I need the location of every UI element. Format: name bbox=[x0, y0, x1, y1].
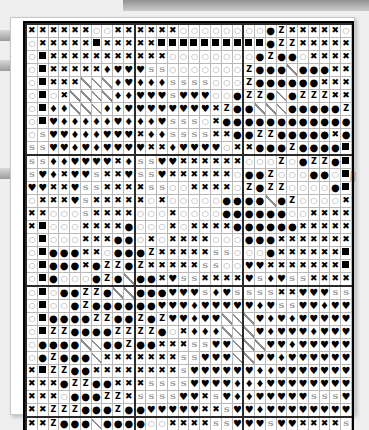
pattern-cell-filled-circle bbox=[330, 142, 341, 156]
diamond-icon bbox=[255, 378, 265, 390]
diagonal-slash-icon bbox=[113, 287, 123, 299]
pattern-cell-letter-z bbox=[48, 417, 59, 430]
pattern-cell-filled-circle bbox=[102, 378, 113, 391]
pattern-cell-heart bbox=[298, 300, 309, 313]
pattern-cell-filled-square bbox=[37, 234, 48, 247]
pattern-cell-bold-cross bbox=[330, 38, 341, 51]
pattern-cell-heart bbox=[123, 129, 134, 142]
pattern-cell-bold-cross bbox=[91, 208, 102, 221]
pattern-cell-heart bbox=[70, 182, 81, 195]
cross-stitch-chart[interactable] bbox=[23, 21, 354, 430]
pattern-cell-bold-cross bbox=[319, 221, 330, 234]
pattern-cell-bold-cross bbox=[211, 129, 222, 142]
pattern-cell-heart bbox=[330, 352, 341, 365]
pattern-cell-heart bbox=[298, 286, 309, 300]
heart-icon bbox=[124, 77, 134, 89]
bold-cross-icon bbox=[157, 247, 167, 259]
filled-circle-icon bbox=[136, 287, 146, 299]
viewer-toolbar[interactable] bbox=[123, 0, 369, 11]
filled-circle-icon bbox=[330, 156, 340, 168]
bold-cross-icon bbox=[157, 365, 167, 377]
pattern-cell-letter-z bbox=[59, 404, 70, 418]
pattern-cell-heart bbox=[211, 300, 222, 313]
heart-icon bbox=[59, 142, 69, 154]
bold-cross-icon bbox=[49, 195, 59, 207]
pattern-cell-letter-z bbox=[102, 260, 113, 273]
open-circle-icon bbox=[27, 51, 37, 63]
pattern-cell-letter-s bbox=[178, 116, 189, 129]
pattern-cell-open-circle bbox=[211, 234, 222, 247]
pattern-cell-filled-circle bbox=[113, 273, 124, 287]
bold-cross-icon bbox=[330, 221, 340, 233]
pattern-cell-heart bbox=[232, 365, 243, 378]
pattern-cell-bold-cross bbox=[341, 234, 352, 247]
pattern-cell-heart bbox=[319, 352, 330, 365]
bold-cross-icon bbox=[102, 234, 112, 246]
pattern-cell-open-circle bbox=[178, 221, 189, 234]
pattern-cell-filled-circle bbox=[135, 286, 146, 300]
letter-s-icon bbox=[168, 116, 178, 128]
filled-circle-icon bbox=[157, 287, 167, 299]
bold-cross-icon bbox=[59, 195, 69, 207]
letter-z-icon bbox=[146, 326, 156, 338]
heart-icon bbox=[38, 182, 48, 194]
pattern-grid[interactable] bbox=[25, 23, 352, 430]
bold-cross-icon bbox=[277, 260, 287, 272]
pattern-cell-open-circle bbox=[59, 208, 70, 221]
pattern-cell-open-circle bbox=[232, 182, 243, 195]
filled-circle-icon bbox=[309, 116, 319, 128]
letter-s-icon bbox=[330, 391, 340, 403]
pattern-row bbox=[26, 247, 352, 260]
bold-cross-icon bbox=[330, 38, 340, 50]
pattern-cell-bold-cross bbox=[26, 391, 37, 404]
letter-z-icon bbox=[309, 90, 319, 102]
filled-circle-icon bbox=[298, 129, 308, 141]
bold-cross-icon bbox=[168, 247, 178, 259]
open-circle-icon bbox=[189, 208, 199, 220]
pattern-cell-heart bbox=[37, 182, 48, 195]
pattern-cell-filled-square bbox=[157, 38, 168, 51]
pattern-cell-bold-cross bbox=[135, 24, 146, 38]
pattern-cell-diamond bbox=[113, 77, 124, 90]
filled-circle-icon bbox=[136, 247, 146, 259]
bold-cross-icon bbox=[124, 182, 134, 194]
pattern-cell-filled-circle bbox=[308, 64, 319, 77]
filled-circle-icon bbox=[49, 247, 59, 259]
pattern-cell-bold-cross bbox=[308, 260, 319, 273]
open-circle-icon bbox=[27, 38, 37, 50]
pattern-cell-filled-circle bbox=[146, 286, 157, 300]
pattern-cell-open-circle bbox=[211, 24, 222, 38]
pattern-cell-bold-cross bbox=[167, 417, 178, 430]
pattern-cell-bold-cross bbox=[211, 221, 222, 234]
pattern-cell-bold-cross bbox=[91, 247, 102, 260]
pattern-cell-open-circle bbox=[59, 234, 70, 247]
filled-circle-icon bbox=[59, 260, 69, 272]
pattern-cell-filled-circle bbox=[287, 129, 298, 142]
pattern-cell-filled-circle bbox=[232, 116, 243, 129]
open-circle-icon bbox=[27, 300, 37, 312]
filled-circle-icon bbox=[309, 129, 319, 141]
pattern-cell-diagonal-slash bbox=[265, 103, 276, 116]
open-circle-icon bbox=[330, 169, 340, 181]
pattern-cell-diamond bbox=[189, 300, 200, 313]
filled-square-icon bbox=[38, 221, 48, 233]
pattern-cell-heart bbox=[255, 391, 266, 404]
filled-square-icon bbox=[38, 51, 48, 63]
pattern-cell-filled-circle bbox=[59, 378, 70, 391]
bold-cross-icon bbox=[49, 51, 59, 63]
pattern-cell-letter-s bbox=[189, 116, 200, 129]
heart-icon bbox=[200, 313, 210, 325]
diamond-icon bbox=[211, 326, 221, 338]
pattern-cell-bold-cross bbox=[308, 417, 319, 430]
heart-icon bbox=[222, 378, 232, 390]
pattern-cell-open-circle bbox=[26, 286, 37, 300]
pattern-cell-letter-s bbox=[221, 417, 232, 430]
pattern-cell-filled-circle bbox=[255, 169, 266, 182]
heart-icon bbox=[341, 326, 351, 338]
bold-cross-icon bbox=[157, 339, 167, 351]
pattern-cell-filled-circle bbox=[330, 116, 341, 129]
pattern-cell-open-circle bbox=[59, 273, 70, 287]
pattern-cell-open-circle bbox=[221, 90, 232, 103]
pattern-cell-open-circle bbox=[276, 169, 287, 182]
pattern-cell-letter-z bbox=[91, 313, 102, 326]
